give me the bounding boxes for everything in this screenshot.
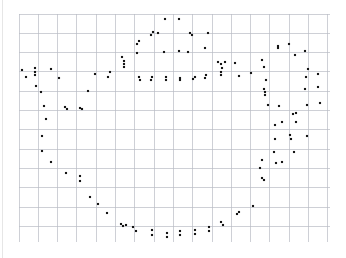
data-point — [122, 225, 124, 227]
data-point — [234, 62, 236, 64]
data-point — [304, 88, 306, 90]
data-point — [236, 213, 238, 215]
data-point — [165, 76, 167, 78]
data-point — [273, 151, 275, 153]
data-point — [264, 94, 266, 96]
data-point — [220, 63, 222, 65]
data-points — [21, 18, 321, 238]
data-point — [307, 68, 309, 70]
data-point — [304, 50, 306, 52]
data-point — [150, 79, 152, 81]
data-point — [138, 40, 140, 42]
data-point — [21, 69, 23, 71]
data-point — [34, 67, 36, 69]
data-point — [50, 68, 52, 70]
data-point — [261, 59, 263, 61]
data-point — [289, 134, 291, 136]
data-point — [194, 76, 196, 78]
data-point — [138, 76, 140, 78]
data-point — [277, 47, 279, 49]
data-point — [89, 196, 91, 198]
data-point — [265, 79, 267, 81]
data-point — [222, 224, 224, 226]
data-point — [107, 76, 109, 78]
data-point — [281, 121, 283, 123]
data-point — [208, 230, 210, 232]
data-point — [66, 108, 68, 110]
data-point — [292, 113, 294, 115]
data-point — [109, 71, 111, 73]
data-point — [204, 47, 206, 49]
data-point — [207, 32, 209, 34]
data-point — [250, 72, 252, 74]
data-point — [41, 135, 43, 137]
data-point — [288, 43, 290, 45]
data-point — [317, 86, 319, 88]
data-point — [81, 108, 83, 110]
data-point — [192, 78, 194, 80]
data-point — [123, 66, 125, 68]
data-point — [132, 226, 134, 228]
data-point — [204, 77, 206, 79]
data-point — [317, 73, 319, 75]
data-point — [293, 151, 295, 153]
data-point — [151, 229, 153, 231]
data-point — [267, 104, 269, 106]
data-point — [123, 63, 125, 65]
data-point — [220, 221, 222, 223]
data-point — [35, 85, 37, 87]
data-point — [43, 105, 45, 107]
data-point — [238, 75, 240, 77]
data-point — [208, 226, 210, 228]
data-point — [178, 50, 180, 52]
data-point — [238, 211, 240, 213]
data-point — [41, 150, 43, 152]
data-point — [179, 79, 181, 81]
plot-canvas — [0, 0, 346, 258]
data-point — [151, 234, 153, 236]
data-point — [275, 162, 277, 164]
data-point — [281, 161, 283, 163]
data-point — [136, 43, 138, 45]
data-point — [34, 74, 36, 76]
data-point — [157, 32, 159, 34]
data-point — [165, 79, 167, 81]
data-point — [163, 51, 165, 53]
data-point — [295, 121, 297, 123]
data-point — [94, 73, 96, 75]
data-point — [125, 224, 127, 226]
data-point — [179, 77, 181, 79]
data-point — [224, 61, 226, 63]
data-point — [25, 76, 27, 78]
data-point — [306, 104, 308, 106]
data-point — [221, 67, 223, 69]
data-point — [166, 236, 168, 238]
data-point — [151, 76, 153, 78]
data-point — [79, 180, 81, 182]
data-point — [217, 61, 219, 63]
data-point — [79, 107, 81, 109]
data-point — [295, 112, 297, 114]
scatter-plot-figure — [0, 0, 346, 258]
data-point — [166, 232, 168, 234]
data-point — [179, 234, 181, 236]
data-point — [274, 138, 276, 140]
data-point — [205, 74, 207, 76]
data-point — [305, 76, 307, 78]
data-point — [40, 91, 42, 93]
data-point — [261, 177, 263, 179]
data-point — [139, 79, 141, 81]
data-point — [164, 18, 166, 20]
data-point — [263, 179, 265, 181]
data-point — [194, 233, 196, 235]
data-point — [58, 77, 60, 79]
data-point — [121, 56, 123, 58]
data-point — [194, 229, 196, 231]
data-point — [64, 106, 66, 108]
data-point — [106, 212, 108, 214]
data-point — [220, 71, 222, 73]
data-point — [34, 71, 36, 73]
data-point — [150, 34, 152, 36]
data-point — [220, 74, 222, 76]
data-point — [189, 32, 191, 34]
